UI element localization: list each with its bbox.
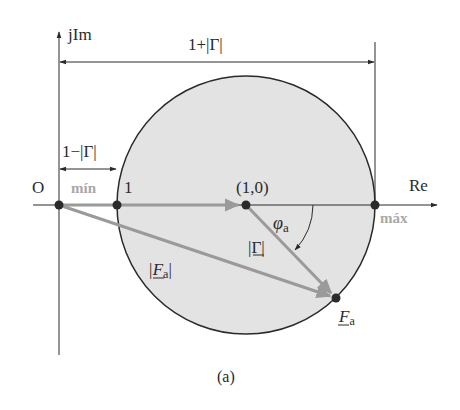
fa-point	[332, 294, 341, 303]
one-label: 1	[124, 178, 133, 197]
max-point	[371, 201, 380, 210]
min-label: mín	[71, 180, 97, 196]
gamma-magnitude-label: |Γ|	[248, 238, 265, 257]
max-dimension-label: 1+|Γ|	[188, 35, 223, 54]
real-axis-label: Re	[409, 176, 428, 195]
center-label: (1,0)	[236, 178, 269, 197]
min-dimension-label: 1−|Γ|	[62, 142, 97, 161]
origin-point	[55, 201, 64, 210]
reflection-circle-diagram: jIm Re O 1+|Γ| 1−|Γ| mín máx 1 (1,0) φa …	[0, 0, 460, 410]
figure-caption: (a)	[217, 368, 235, 386]
center-point	[242, 201, 251, 210]
min-point	[113, 201, 122, 210]
origin-label: O	[32, 178, 44, 197]
imag-axis-label: jIm	[67, 25, 92, 44]
max-label: máx	[380, 210, 408, 226]
